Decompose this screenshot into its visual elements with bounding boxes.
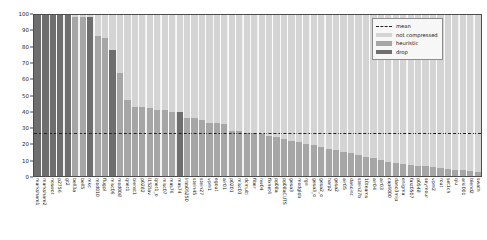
x-tick-label: misc03 <box>236 178 241 195</box>
bar <box>42 15 49 176</box>
x-tick: vpm2 <box>430 178 437 240</box>
bar-value <box>414 166 421 176</box>
x-tick: danoint <box>347 178 354 240</box>
x-tick-label: egout <box>214 178 219 191</box>
grid-line <box>176 15 177 176</box>
bar <box>94 15 101 176</box>
x-tick: modglob <box>295 178 302 240</box>
y-tick-label: 10 <box>22 158 29 164</box>
x-tick: air03 <box>377 178 384 240</box>
y-tick-label: 30 <box>22 125 29 131</box>
x-tick-label: blend2 <box>468 178 473 194</box>
grid-line <box>198 15 199 176</box>
x-tick-label: gesa3_o <box>311 178 316 197</box>
x-tick: enigma <box>400 178 407 240</box>
bar-chart-figure: 0102030405060708090100 markshare1marksha… <box>0 0 487 240</box>
legend-swatch-heuristic <box>376 41 392 46</box>
bar <box>139 15 146 176</box>
bar <box>273 15 280 176</box>
grid-line <box>205 15 206 176</box>
bar <box>49 15 56 176</box>
bar-value <box>191 118 198 176</box>
bar-value <box>49 15 56 176</box>
x-tick: vpm1 <box>205 178 212 240</box>
bar <box>236 15 243 176</box>
bar-value <box>265 136 272 176</box>
x-tick-label: bienst1 <box>132 178 137 195</box>
grid-line <box>56 15 57 176</box>
x-tick-label: bell3a <box>72 178 77 192</box>
grid-line <box>108 15 109 176</box>
bar-value <box>228 131 235 176</box>
grid-line <box>317 15 318 176</box>
x-tick: fast0507 <box>407 178 414 240</box>
x-tick-label: air04 <box>371 178 376 190</box>
grid-line <box>295 15 296 176</box>
bar <box>169 15 176 176</box>
bar <box>347 15 354 176</box>
bar <box>116 15 123 176</box>
bar <box>265 15 272 176</box>
grid-line <box>362 15 363 176</box>
bar <box>206 15 213 176</box>
bar <box>57 15 64 176</box>
x-tick: rgn <box>302 178 309 240</box>
grid-line <box>220 15 221 176</box>
x-tick: dcmulti <box>243 178 250 240</box>
y-tick-label: 40 <box>22 109 29 115</box>
grid-line <box>287 15 288 176</box>
x-tick-label: markshare2 <box>42 178 47 206</box>
bar-value <box>377 160 384 176</box>
bar-value <box>72 17 79 176</box>
bar <box>444 15 451 176</box>
bar <box>198 15 205 176</box>
x-tick: misc06 <box>108 178 115 240</box>
legend-swatch-drop <box>376 50 392 55</box>
bar-value <box>385 162 392 176</box>
x-tick-label: harp2 <box>326 178 331 191</box>
y-axis: 0102030405060708090100 <box>0 14 33 177</box>
bar-value <box>280 139 287 176</box>
x-tick: pp08a <box>273 178 280 240</box>
legend-swatch-notcompressed <box>376 33 392 38</box>
x-tick-label: gesa3 <box>289 178 294 192</box>
x-tick-label: cap6000 <box>386 178 391 198</box>
x-tick: p2756 <box>55 178 62 240</box>
grid-line <box>71 15 72 176</box>
bar-value <box>273 137 280 176</box>
bar-value <box>407 165 414 176</box>
x-tick-label: p2756 <box>57 178 62 193</box>
legend-swatch-mean <box>376 26 392 27</box>
bar <box>191 15 198 176</box>
x-tick-label: set1ch <box>446 178 451 193</box>
x-axis: markshare1markshare2noswotp2756gt2bell3a… <box>33 178 482 240</box>
bar-value <box>161 110 168 176</box>
grid-line <box>325 15 326 176</box>
bar <box>467 15 474 176</box>
x-tick-label: pp08a <box>274 178 279 193</box>
y-tick-label: 70 <box>22 60 29 66</box>
bar-value <box>131 107 138 176</box>
x-tick: bienst1 <box>130 178 137 240</box>
bar-value <box>370 158 377 176</box>
grid-line <box>265 15 266 176</box>
bar <box>176 15 183 176</box>
grid-line <box>94 15 95 176</box>
bar <box>154 15 161 176</box>
grid-line <box>250 15 251 176</box>
x-tick-label: arki001 <box>461 178 466 195</box>
bar <box>295 15 302 176</box>
bar-value <box>258 134 265 176</box>
grid-line <box>280 15 281 176</box>
x-tick: set1ch <box>445 178 452 240</box>
x-tick-label: p0201 <box>229 178 234 193</box>
x-tick: noswot <box>48 178 55 240</box>
x-tick-label: danoint <box>349 178 354 195</box>
x-tick: gt2 <box>63 178 70 240</box>
bar-value <box>154 110 161 176</box>
x-tick-label: misc06 <box>109 178 114 195</box>
x-tick: air04 <box>370 178 377 240</box>
x-tick-label: qnet1_o <box>154 178 159 197</box>
bar <box>258 15 265 176</box>
grid-line <box>474 15 475 176</box>
